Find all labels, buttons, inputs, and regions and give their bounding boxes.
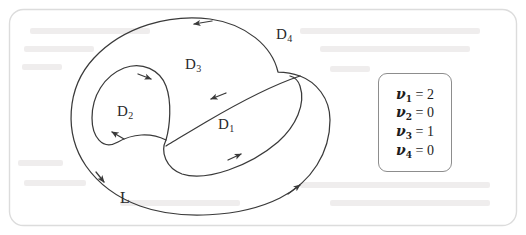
- arrow-lower-lobe: [228, 154, 241, 160]
- legend-row-nu3: ν3 = 1: [396, 124, 434, 140]
- arrow-diagonal-strand: [211, 93, 226, 99]
- legend-equals-3: =: [416, 124, 424, 139]
- legend-value-1: 2: [427, 87, 434, 102]
- region-label-d3: D3: [185, 57, 201, 72]
- legend-value-2: 0: [427, 105, 434, 120]
- nu-symbol-2: ν2: [396, 104, 412, 120]
- arrow-bottom-right-outer: [288, 185, 300, 194]
- legend-row-nu2: ν2 = 0: [396, 105, 434, 121]
- curve-L: [71, 18, 330, 215]
- legend-equals-2: =: [416, 105, 424, 120]
- curve-label-l: L: [120, 190, 130, 206]
- figure-root: D1 D2 D3 D4 L ν1 = 2 ν2 = 0 ν3 = 1 ν4 = …: [0, 0, 526, 235]
- legend-value-3: 1: [427, 124, 434, 139]
- nu-symbol-4: ν4: [396, 142, 412, 158]
- diagonal-strand-path: [166, 76, 300, 146]
- legend-equals-1: =: [416, 87, 424, 102]
- region-label-d2: D2: [117, 104, 133, 119]
- legend-row-nu4: ν4 = 0: [396, 143, 434, 159]
- region-label-d4: D4: [276, 27, 292, 42]
- winding-number-legend: ν1 = 2 ν2 = 0 ν3 = 1 ν4 = 0: [378, 73, 452, 172]
- arrow-left-lower-outer: [96, 172, 104, 182]
- arrow-inner-loop-left: [112, 132, 124, 139]
- outer-loop-path: [71, 18, 330, 215]
- legend-equals-4: =: [416, 143, 424, 158]
- nu-symbol-1: ν1: [396, 86, 412, 102]
- region-label-d1: D1: [218, 117, 234, 132]
- legend-row-nu1: ν1 = 2: [396, 87, 434, 103]
- arrow-inner-loop-top: [138, 74, 151, 79]
- legend-value-4: 0: [427, 143, 434, 158]
- arrow-top-outer: [194, 21, 212, 24]
- nu-symbol-3: ν3: [396, 123, 412, 139]
